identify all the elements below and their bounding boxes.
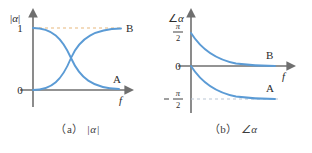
y-tick-label-neg-half-pi: π 2	[164, 88, 183, 110]
caption-text-b: ∠α	[238, 123, 258, 135]
curve-series-b-phase	[191, 33, 275, 66]
curve-series-b-rising	[33, 29, 121, 91]
x-axis-label-f: f	[119, 94, 124, 106]
panel-caption-b: （b）∠α	[156, 120, 312, 136]
y-tick-label-zero: 0	[175, 60, 181, 72]
caption-index-b: （b）	[209, 123, 238, 135]
curve-label-a: A	[113, 73, 121, 85]
caption-text-a: |α|	[84, 123, 100, 135]
caption-index-a: （a）	[55, 123, 83, 135]
curve-label-b: B	[126, 22, 133, 34]
curve-series-a-falling	[33, 28, 119, 89]
chart-panel-magnitude: |α| 1 0 B A f （a）|α|	[0, 0, 156, 153]
figure-container: |α| 1 0 B A f （a）|α|	[0, 0, 311, 153]
panel-caption-a: （a）|α|	[0, 120, 156, 136]
magnitude-plot-svg: |α| 1 0 B A f	[0, 0, 155, 122]
phase-plot-svg: ∠α π 2 0 π 2	[156, 0, 312, 122]
y-tick-label-half-pi: π 2	[173, 21, 183, 43]
curve-label-b: B	[266, 49, 273, 61]
svg-text:π: π	[175, 88, 180, 98]
svg-text:π: π	[175, 21, 180, 31]
curve-series-a-phase	[191, 66, 275, 99]
y-tick-label-0: 0	[17, 84, 23, 96]
y-tick-label-1: 1	[17, 22, 23, 34]
curve-label-a: A	[266, 82, 274, 94]
x-axis-label-f: f	[282, 70, 287, 82]
svg-text:2: 2	[175, 100, 179, 110]
svg-text:2: 2	[175, 33, 179, 43]
chart-panel-phase: ∠α π 2 0 π 2	[156, 0, 312, 153]
